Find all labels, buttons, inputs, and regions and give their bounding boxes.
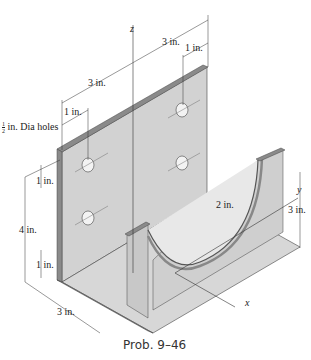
figure-caption: Prob. 9–46: [123, 338, 186, 352]
left-side-wall: [127, 223, 148, 318]
dim-top-right-offset: 1 in.: [185, 43, 203, 53]
hole-diameter-label: 12 in. Dia holes: [2, 121, 58, 134]
dim-base-width: 3 in.: [57, 307, 75, 317]
dim-right-height: 3 in.: [288, 205, 306, 215]
dim-left-offset: 1 in.: [64, 107, 82, 117]
dim-radius: 2 in.: [216, 200, 234, 210]
dim-left-bottom-offset: 1 in.: [36, 260, 54, 270]
x-axis-label: x: [245, 298, 249, 308]
dim-top-span-right: 3 in.: [162, 37, 180, 47]
dim-top-span-left: 3 in.: [88, 78, 106, 88]
y-axis-label: y: [297, 185, 301, 195]
z-axis-label: z: [130, 24, 134, 34]
back-plate-left-edge: [57, 149, 62, 282]
dim-left-hole-spacing: 1 in.: [36, 176, 54, 186]
dim-left-height: 4 in.: [19, 225, 37, 235]
